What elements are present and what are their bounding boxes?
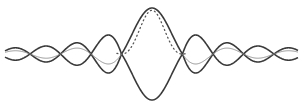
sinc-squared-center-dotted (117, 10, 187, 54)
sinc-negative-curve (5, 35, 298, 100)
sinc-positive-curve (5, 8, 298, 73)
sinc-diagram (0, 0, 304, 109)
